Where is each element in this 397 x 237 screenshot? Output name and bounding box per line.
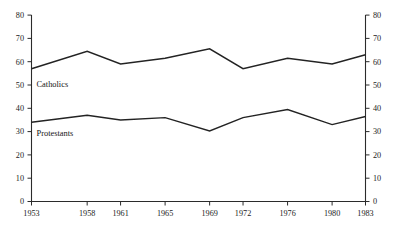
right-tick-label: 40	[373, 104, 381, 113]
right-tick-label: 80	[373, 11, 381, 20]
left-tick-label: 10	[16, 174, 24, 183]
left-tick-label: 50	[16, 81, 24, 90]
series-label-catholics: Catholics	[37, 80, 69, 89]
left-axis-tick-labels: 0 10 20 30 40 50 60 70 80	[16, 11, 24, 206]
left-tick-label: 0	[20, 197, 24, 206]
right-tick-label: 20	[373, 151, 381, 160]
right-tick-label: 70	[373, 34, 381, 43]
left-tick-label: 40	[16, 104, 24, 113]
x-tick-label: 1953	[23, 209, 39, 218]
x-axis-tick-labels: 195319581961196519691972197619801983	[23, 209, 373, 218]
right-tick-label: 10	[373, 174, 381, 183]
x-tick-label: 1972	[235, 209, 251, 218]
left-tick-label: 80	[16, 11, 24, 20]
x-tick-label: 1976	[279, 209, 295, 218]
left-tick-label: 20	[16, 151, 24, 160]
x-tick-label: 1980	[324, 209, 340, 218]
right-tick-label: 30	[373, 127, 381, 136]
right-tick-label: 0	[373, 197, 377, 206]
series-line-catholics	[32, 49, 366, 69]
x-tick-label: 1961	[112, 209, 128, 218]
left-tick-label: 70	[16, 34, 24, 43]
right-axis-ticks	[366, 15, 370, 201]
left-tick-label: 60	[16, 58, 24, 67]
x-tick-label: 1958	[79, 209, 95, 218]
right-tick-label: 60	[373, 58, 381, 67]
chart-plot-area: 0 10 20 30 40 50 60 70 80 0 10 20 30 40 …	[0, 0, 397, 237]
right-axis-tick-labels: 0 10 20 30 40 50 60 70 80	[373, 11, 381, 206]
series-label-protestants: Protestants	[37, 129, 74, 138]
x-tick-label: 1983	[357, 209, 373, 218]
x-axis-ticks	[32, 202, 366, 206]
series-line-protestants	[32, 109, 366, 130]
x-tick-label: 1965	[157, 209, 173, 218]
line-chart: 0 10 20 30 40 50 60 70 80 0 10 20 30 40 …	[0, 0, 397, 237]
right-tick-label: 50	[373, 81, 381, 90]
left-tick-label: 30	[16, 127, 24, 136]
x-tick-label: 1969	[201, 209, 217, 218]
left-axis-ticks	[28, 15, 32, 201]
